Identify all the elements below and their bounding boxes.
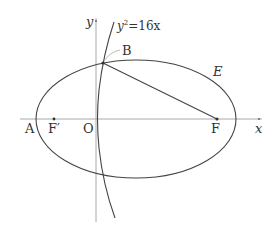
label-parabola-equation: y2=16x bbox=[116, 19, 161, 33]
label-O: O bbox=[83, 121, 94, 136]
point-B bbox=[101, 61, 104, 64]
x-axis-arrow-icon bbox=[258, 118, 260, 120]
label-B: B bbox=[122, 43, 132, 58]
label-A: A bbox=[24, 121, 35, 136]
segment-BF bbox=[103, 63, 217, 119]
b-label-leader bbox=[104, 50, 120, 61]
label-y-axis: y bbox=[85, 14, 94, 29]
ellipse-parabola-diagram: A F′ O F B E x y y2=16x bbox=[0, 0, 280, 235]
point-F-prime bbox=[53, 118, 56, 121]
label-F-prime: F′ bbox=[48, 121, 60, 136]
y-axis-arrow-icon bbox=[95, 20, 97, 22]
label-E: E bbox=[212, 64, 223, 79]
eq-rest: =16x bbox=[128, 19, 160, 33]
label-x-axis: x bbox=[255, 121, 263, 136]
parabola bbox=[98, 22, 116, 218]
label-F: F bbox=[211, 121, 220, 136]
